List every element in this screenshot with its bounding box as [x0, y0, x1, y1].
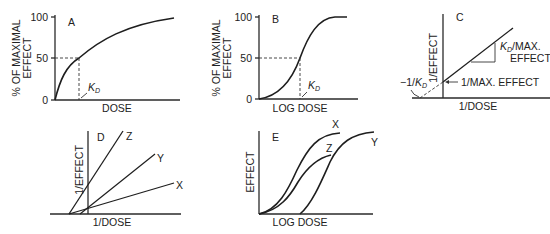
panel-a-ylabel-2: EFFECT — [21, 37, 33, 78]
panel-b: 100 50 0 B KD LOG DOSE % OF MAXIMAL EFFE… — [210, 11, 358, 114]
panel-e-label-x: X — [332, 118, 339, 130]
panel-e: E X Z Y LOG DOSE EFFECT — [244, 118, 378, 228]
panel-a-kd-pointer — [81, 93, 87, 98]
panel-c-intercept-label: 1/MAX. EFFECT — [461, 76, 540, 88]
panel-b-letter: B — [272, 13, 279, 25]
panel-c-xintercept-pointer — [411, 90, 419, 97]
panel-c-xintercept-label: −1/KD — [400, 76, 427, 89]
panel-d-label-y: Y — [157, 152, 164, 164]
panel-d: D Z Y X 1/DOSE 1/EFFECT — [50, 130, 183, 228]
panel-b-kd-label: KD — [308, 79, 320, 92]
panel-e-curve-y — [300, 132, 374, 214]
panel-c-slope-label-2: EFFECT — [510, 52, 550, 64]
ytick-50: 50 — [36, 52, 48, 64]
figure-canvas: 100 50 0 A KD DOSE % OF MAXIMAL EFFECT 1… — [0, 0, 550, 234]
panel-c: C KD/MAX. EFFECT 1/MAX. EFFECT −1/KD 1/D… — [400, 11, 550, 112]
panel-e-label-z: Z — [326, 142, 333, 154]
panel-a-xlabel: DOSE — [102, 102, 132, 114]
panel-e-ylabel: EFFECT — [244, 151, 256, 192]
panel-e-label-y: Y — [371, 136, 378, 148]
panel-b-curve — [259, 17, 347, 99]
ytick-0: 0 — [42, 94, 48, 106]
panel-a-letter: A — [68, 16, 75, 28]
panel-b-kd-pointer — [302, 92, 307, 97]
panel-d-line-y — [80, 154, 155, 214]
panel-d-letter: D — [97, 131, 105, 143]
ytick-50: 50 — [240, 52, 252, 64]
panel-a-curve — [55, 18, 174, 100]
panel-c-line — [443, 28, 513, 82]
panel-a-kd-label: KD — [88, 81, 100, 94]
panel-c-xlabel: 1/DOSE — [459, 100, 498, 112]
ytick-0: 0 — [246, 93, 252, 105]
ytick-100: 100 — [234, 11, 252, 23]
panel-c-ylabel: 1/EFFECT — [427, 33, 439, 83]
panel-d-ylabel: 1/EFFECT — [73, 145, 85, 195]
panel-c-letter: C — [456, 11, 464, 23]
panel-d-xlabel: 1/DOSE — [93, 216, 132, 228]
panel-a: 100 50 0 A KD DOSE % OF MAXIMAL EFFECT — [10, 11, 180, 114]
panel-b-xlabel: LOG DOSE — [273, 102, 328, 114]
panel-e-letter: E — [272, 131, 279, 143]
panel-b-ylabel-2: EFFECT — [221, 37, 233, 78]
ytick-100: 100 — [30, 11, 48, 23]
panel-d-label-x: X — [176, 179, 183, 191]
panel-e-xlabel: LOG DOSE — [273, 216, 328, 228]
panel-d-label-z: Z — [126, 130, 133, 142]
